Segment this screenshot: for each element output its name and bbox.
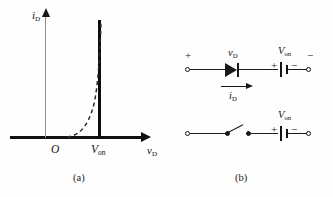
threshold-voltage-label: Von [91, 144, 105, 156]
current-arrow-line [221, 86, 247, 87]
wire-left-to-diode [190, 69, 225, 70]
battery-plus-sign-2: + [271, 124, 277, 135]
wire-battery-to-right-2 [288, 133, 308, 134]
wire-battery-to-right [288, 69, 308, 70]
actual-diode-curve [10, 8, 160, 138]
panel-iv-characteristic: iD vD O Von (a) [0, 0, 167, 197]
y-axis-label: iD [32, 10, 40, 21]
right-terminal-minus-sign: − [307, 50, 313, 61]
origin-label: O [51, 144, 59, 156]
battery-long-plate-icon-2 [280, 126, 282, 141]
panel-equivalent-circuits: + vD + − Von − iD [167, 0, 333, 197]
current-arrow-head-icon [246, 83, 253, 89]
diode-icon [225, 63, 237, 77]
battery-voltage-label: Von [278, 46, 291, 57]
x-axis-label: vD [147, 145, 157, 156]
wire-left-to-switch [190, 133, 226, 134]
right-terminal-node [306, 67, 311, 72]
battery-plus-sign: + [271, 60, 277, 71]
current-label: iD [229, 91, 237, 102]
switch-blade-icon [228, 124, 244, 133]
diode-voltage-label: vD [228, 48, 238, 59]
right-terminal-node-2 [306, 131, 311, 136]
battery-voltage-label-2: Von [278, 110, 291, 121]
panel-b-caption: (b) [235, 172, 247, 183]
plot-area: iD vD O Von [10, 8, 160, 138]
left-terminal-plus-sign: + [185, 50, 191, 61]
diode-model-figure: iD vD O Von (a) + vD + − Von − [0, 0, 333, 197]
panel-a-caption: (a) [73, 172, 85, 183]
battery-long-plate-icon [280, 62, 282, 77]
